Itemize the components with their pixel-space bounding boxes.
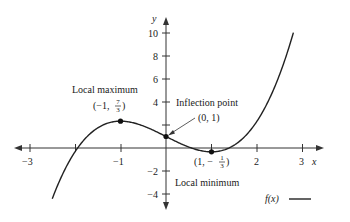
svg-text:(−1,: (−1,: [93, 100, 109, 112]
arrow-right-icon: [316, 145, 324, 151]
local-maximum-point: [118, 119, 123, 124]
y-tick-label: 8: [153, 51, 158, 62]
inflection-coord: (0, 1): [198, 112, 220, 124]
svg-text:7: 7: [116, 98, 120, 106]
inflection-title: Inflection point: [176, 97, 238, 108]
x-axis-label: x: [311, 156, 317, 167]
inflection-pointer-arrow: [168, 118, 195, 136]
y-tick-label: −4: [147, 189, 158, 200]
legend: f(x): [265, 193, 311, 205]
y-tick-label: 4: [153, 97, 158, 108]
arrow-down-icon: [163, 202, 169, 210]
local-minimum-coord: (1, − 1 3 ): [194, 154, 229, 170]
svg-text:(1, −: (1, −: [194, 156, 213, 168]
local-minimum-point: [209, 149, 214, 154]
x-tick-label: 2: [254, 156, 259, 167]
y-tick-label: −2: [147, 166, 158, 177]
local-maximum-title: Local maximum: [72, 84, 138, 95]
arrow-up-icon: [163, 17, 169, 25]
local-minimum-title: Local minimum: [175, 177, 239, 188]
x-tick-label: 3: [299, 156, 304, 167]
svg-text:): ): [226, 156, 229, 168]
svg-text:): ): [122, 100, 125, 112]
svg-text:3: 3: [220, 162, 224, 170]
inflection-point: [163, 134, 168, 139]
legend-label: f(x): [265, 193, 280, 205]
x-axis: [14, 144, 324, 152]
y-tick-label: 6: [153, 74, 158, 85]
x-tick-label: −3: [22, 156, 33, 167]
function-curve: [52, 33, 293, 199]
y-tick-label: 10: [148, 28, 158, 39]
function-graph: −3 −1 2 3 x 10 8 6 4 −2 −4 y Local maxim…: [0, 0, 350, 222]
svg-text:3: 3: [116, 106, 120, 114]
svg-text:1: 1: [220, 154, 224, 162]
y-axis-label: y: [151, 13, 157, 24]
y-axis: [162, 17, 170, 210]
arrow-left-icon: [14, 145, 22, 151]
x-tick-label: −1: [113, 156, 124, 167]
local-maximum-coord: (−1, 7 3 ): [93, 98, 125, 114]
